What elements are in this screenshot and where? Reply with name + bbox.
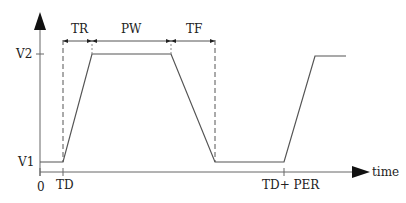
origin-label: 0 [37,181,45,193]
tf-label: TF [186,23,202,35]
x-axis-arrow-icon [352,166,370,178]
td-label: TD [56,179,74,191]
tr-label: TR [71,23,88,35]
time-axis-label: time [372,166,399,178]
pulse-diagram: TR PW TF V2 V1 0 TD TD+ PER time [0,0,406,203]
pw-label: PW [121,23,141,35]
diagram-canvas [0,0,406,203]
v2-label: V2 [16,48,32,60]
y-axis-arrow-icon [34,12,46,30]
pulse-waveform [40,54,346,162]
v1-label: V1 [18,156,34,168]
td-per-label: TD+ PER [262,179,319,191]
